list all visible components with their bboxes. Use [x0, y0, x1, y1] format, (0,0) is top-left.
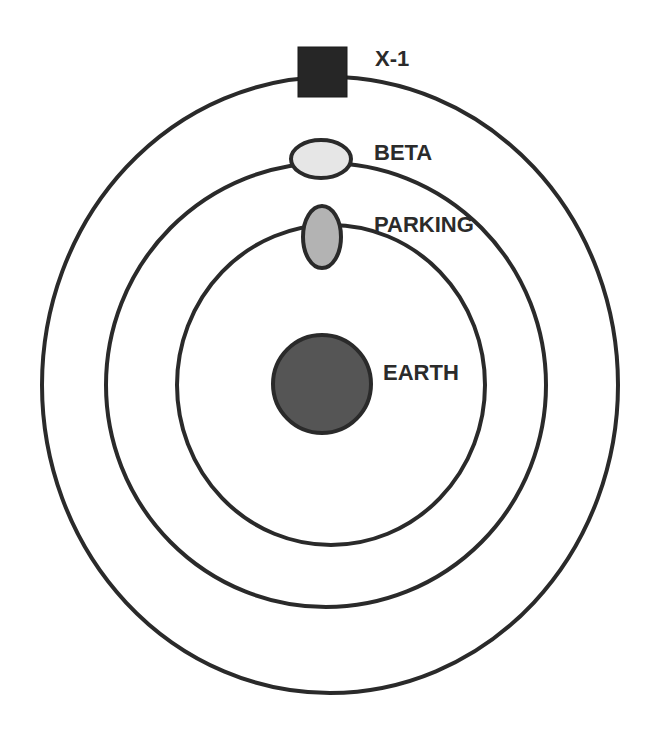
parking-label: PARKING	[374, 212, 474, 237]
earth-icon	[273, 335, 371, 433]
orbit-diagram: EARTH PARKING BETA X-1	[0, 0, 660, 740]
beta-label: BETA	[374, 140, 432, 165]
x1-square-icon	[298, 47, 347, 97]
beta-body-icon	[291, 140, 351, 178]
earth-label: EARTH	[383, 360, 459, 385]
x1-label: X-1	[375, 46, 409, 71]
parking-body-icon	[303, 206, 341, 268]
